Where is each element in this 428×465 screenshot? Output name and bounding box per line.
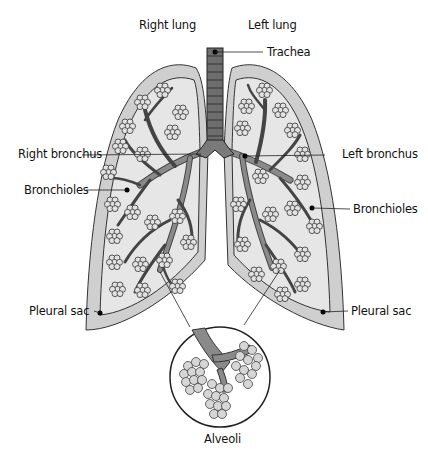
lung-illustration bbox=[0, 0, 428, 465]
right-lung-label: Right lung bbox=[139, 18, 196, 32]
alveoli-label: Alveoli bbox=[204, 432, 241, 446]
trachea-label: Trachea bbox=[267, 45, 310, 59]
pleural-sac-left-label: Pleural sac bbox=[351, 304, 411, 318]
bronchioles-right-label: Bronchioles bbox=[24, 183, 89, 197]
alveoli-inset bbox=[170, 327, 270, 427]
lung-diagram: Right lung Left lung Trachea Right bronc… bbox=[0, 0, 428, 465]
left-bronchus-label: Left bronchus bbox=[342, 147, 418, 161]
left-lung bbox=[224, 65, 344, 330]
right-lung bbox=[86, 65, 208, 330]
pleural-sac-right-label: Pleural sac bbox=[29, 304, 89, 318]
right-bronchus-label: Right bronchus bbox=[18, 147, 102, 161]
left-lung-label: Left lung bbox=[248, 18, 297, 32]
bronchioles-left-label: Bronchioles bbox=[353, 202, 418, 216]
